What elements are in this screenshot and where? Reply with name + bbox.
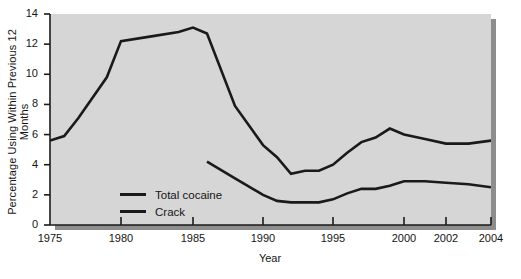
x-tick-label: 1995 bbox=[313, 233, 353, 244]
x-tick-label: 1990 bbox=[243, 233, 283, 244]
x-tick-label: 1975 bbox=[30, 233, 70, 244]
x-tick-label: 2002 bbox=[426, 233, 466, 244]
x-tick-label: 1985 bbox=[173, 233, 213, 244]
chart-figure: Total cocaine Crack 02468101214197519801… bbox=[0, 0, 521, 279]
x-tick-label: 1980 bbox=[101, 233, 141, 244]
y-axis-label: Percentage Using Within Previous 12 Mont… bbox=[6, 22, 30, 222]
x-axis-label: Year bbox=[240, 252, 300, 264]
y-tick-label: 14 bbox=[20, 8, 38, 19]
axis-lines bbox=[50, 14, 491, 225]
x-tick-label: 2000 bbox=[384, 233, 424, 244]
x-axis-ticks bbox=[121, 217, 491, 225]
x-tick-label: 2004 bbox=[471, 233, 511, 244]
y-axis-ticks bbox=[44, 14, 50, 225]
